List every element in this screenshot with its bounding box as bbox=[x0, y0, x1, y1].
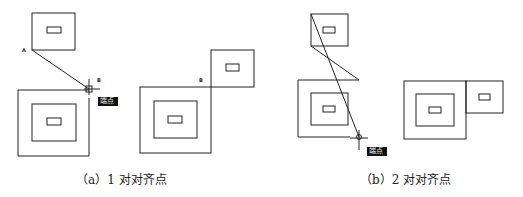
small-square-a2 bbox=[211, 50, 254, 87]
large-square-a bbox=[18, 90, 89, 156]
small-inner-rect-a2 bbox=[226, 64, 239, 71]
large-square-b2 bbox=[404, 81, 466, 139]
small-inner-rect-b bbox=[323, 27, 335, 33]
large-inner-rect-b bbox=[323, 106, 335, 112]
panel-b-before bbox=[298, 14, 368, 150]
panel-a-after bbox=[140, 50, 254, 153]
large-middle-rect-a2 bbox=[154, 101, 197, 138]
point-a-label: A bbox=[22, 47, 26, 53]
caption-a: （a）1 对对齐点 bbox=[76, 170, 167, 187]
panel-a-before bbox=[18, 13, 100, 156]
small-inner-rect-a bbox=[47, 27, 61, 33]
diagram-canvas bbox=[0, 0, 523, 197]
large-square-a2 bbox=[140, 87, 211, 153]
large-inner-rect-b2 bbox=[429, 107, 441, 113]
snap-tooltip-a: 端点 bbox=[98, 97, 118, 106]
large-middle-rect-a bbox=[32, 104, 76, 141]
caption-b: （b）2 对对齐点 bbox=[360, 170, 451, 187]
large-middle-rect-b bbox=[311, 93, 348, 125]
large-inner-rect-a2 bbox=[168, 116, 182, 123]
point-b-result-label: B bbox=[199, 77, 203, 83]
large-middle-rect-b2 bbox=[416, 94, 454, 126]
large-square-b bbox=[298, 80, 359, 137]
panel-b-after bbox=[404, 81, 503, 139]
alignment-line-a bbox=[32, 50, 89, 89]
small-square-b2 bbox=[466, 81, 503, 113]
small-square-a bbox=[32, 13, 75, 50]
large-inner-rect-a bbox=[47, 118, 61, 125]
small-inner-rect-b2 bbox=[479, 94, 490, 100]
snap-tooltip-b: 端点 bbox=[367, 147, 387, 156]
small-square-b bbox=[311, 14, 348, 46]
point-b-label: B bbox=[97, 77, 101, 83]
